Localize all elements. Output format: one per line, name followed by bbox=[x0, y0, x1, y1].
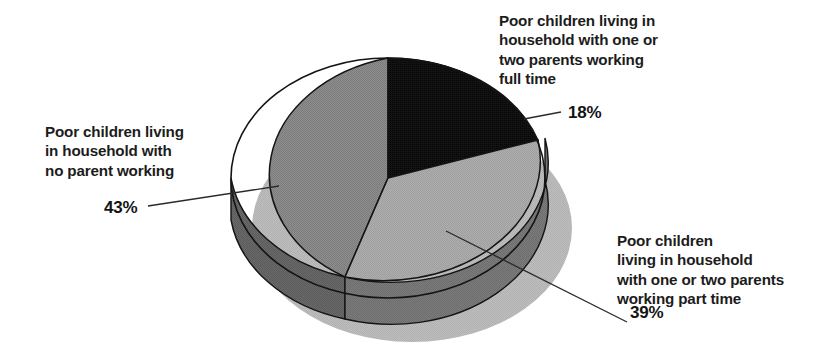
pie-chart-graphic bbox=[0, 0, 821, 364]
callout-value-full-time: 18% bbox=[568, 103, 601, 123]
callout-label-full-time: Poor children living in household with o… bbox=[499, 11, 658, 89]
callout-label-no-parent-working: Poor children living in household with n… bbox=[45, 122, 184, 180]
callout-value-part-time: 39% bbox=[630, 303, 663, 323]
leader-line-full-time bbox=[524, 112, 561, 119]
callout-label-part-time: Poor children living in household with o… bbox=[617, 231, 784, 309]
pie-chart-figure: Poor children living in household with o… bbox=[0, 0, 821, 364]
callout-value-no-parent-working: 43% bbox=[104, 198, 137, 218]
